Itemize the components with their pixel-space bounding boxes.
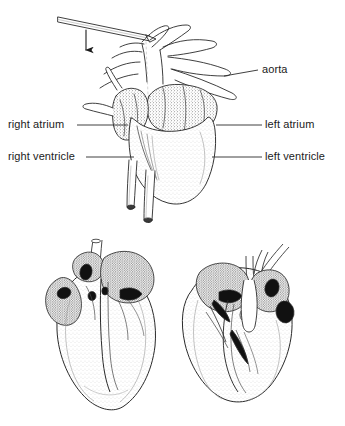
label-left-ventricle: left ventricle (265, 151, 325, 162)
label-aorta: aorta (262, 64, 288, 75)
heart-anatomy-figure (0, 0, 345, 426)
canvas-background (0, 0, 345, 426)
label-right-atrium: right atrium (8, 119, 64, 130)
label-right-ventricle: right ventricle (8, 151, 75, 162)
label-left-atrium: left atrium (265, 119, 314, 130)
